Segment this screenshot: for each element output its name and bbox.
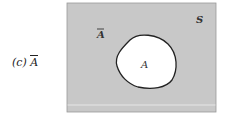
venn-diagram: S A A: [0, 0, 228, 120]
universe-label: S: [196, 14, 203, 25]
set-a-label: A: [140, 59, 148, 70]
complement-label: A: [96, 29, 105, 40]
